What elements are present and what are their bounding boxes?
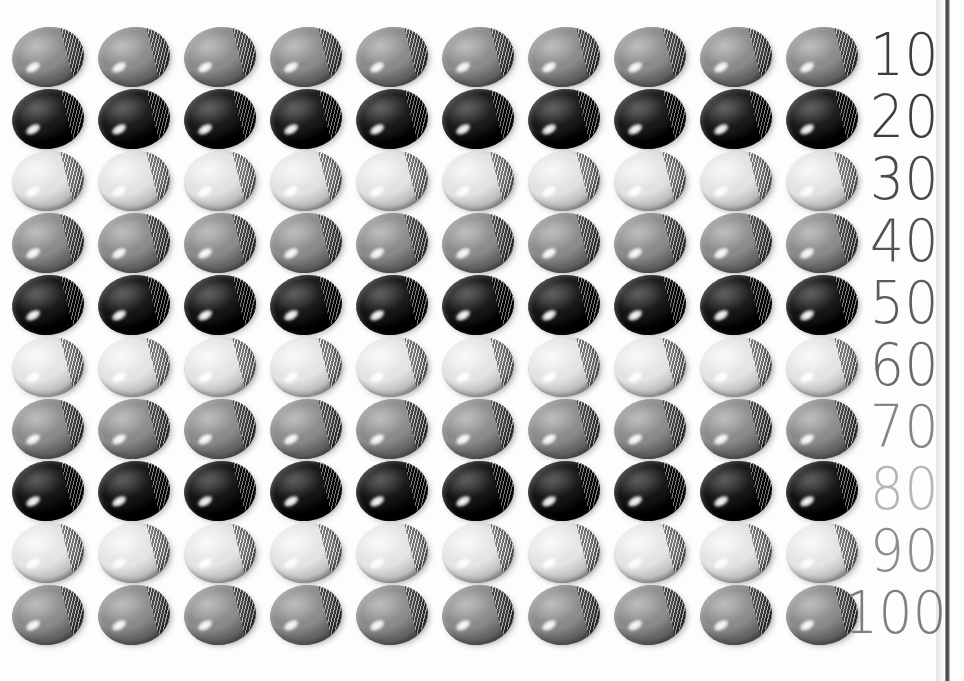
disc[interactable]	[700, 213, 772, 273]
disc[interactable]	[700, 399, 772, 459]
disc[interactable]	[12, 461, 84, 521]
disc[interactable]	[786, 523, 858, 583]
disc[interactable]	[356, 27, 428, 87]
disc[interactable]	[356, 585, 428, 645]
disc[interactable]	[786, 399, 858, 459]
disc[interactable]	[98, 275, 170, 335]
disc[interactable]	[700, 275, 772, 335]
disc[interactable]	[786, 89, 858, 149]
disc[interactable]	[12, 585, 84, 645]
disc[interactable]	[786, 27, 858, 87]
disc[interactable]	[442, 337, 514, 397]
disc[interactable]	[614, 213, 686, 273]
disc[interactable]	[700, 461, 772, 521]
disc[interactable]	[12, 27, 84, 87]
disc[interactable]	[356, 523, 428, 583]
disc[interactable]	[356, 151, 428, 211]
disc[interactable]	[442, 585, 514, 645]
disc[interactable]	[700, 89, 772, 149]
disc[interactable]	[356, 89, 428, 149]
disc[interactable]	[614, 523, 686, 583]
disc[interactable]	[528, 27, 600, 87]
disc[interactable]	[614, 585, 686, 645]
disc[interactable]	[442, 89, 514, 149]
disc[interactable]	[700, 585, 772, 645]
disc[interactable]	[442, 275, 514, 335]
disc[interactable]	[614, 89, 686, 149]
disc[interactable]	[184, 461, 256, 521]
disc[interactable]	[786, 151, 858, 211]
disc[interactable]	[98, 337, 170, 397]
disc[interactable]	[12, 151, 84, 211]
disc[interactable]	[786, 213, 858, 273]
disc[interactable]	[270, 213, 342, 273]
disc[interactable]	[528, 461, 600, 521]
disc[interactable]	[356, 337, 428, 397]
disc[interactable]	[614, 27, 686, 87]
disc[interactable]	[270, 151, 342, 211]
disc[interactable]	[12, 275, 84, 335]
disc[interactable]	[442, 151, 514, 211]
disc[interactable]	[614, 461, 686, 521]
disc[interactable]	[12, 523, 84, 583]
disc[interactable]	[700, 27, 772, 87]
disc[interactable]	[184, 399, 256, 459]
disc[interactable]	[700, 151, 772, 211]
disc[interactable]	[614, 337, 686, 397]
disc[interactable]	[786, 337, 858, 397]
disc[interactable]	[12, 337, 84, 397]
disc[interactable]	[98, 213, 170, 273]
disc[interactable]	[528, 585, 600, 645]
disc[interactable]	[528, 213, 600, 273]
disc[interactable]	[442, 523, 514, 583]
disc[interactable]	[442, 27, 514, 87]
disc[interactable]	[184, 151, 256, 211]
disc[interactable]	[98, 461, 170, 521]
disc[interactable]	[700, 337, 772, 397]
disc[interactable]	[12, 399, 84, 459]
disc[interactable]	[98, 151, 170, 211]
disc[interactable]	[614, 275, 686, 335]
disc[interactable]	[12, 89, 84, 149]
disc[interactable]	[98, 89, 170, 149]
disc[interactable]	[98, 585, 170, 645]
disc[interactable]	[356, 461, 428, 521]
disc[interactable]	[270, 337, 342, 397]
disc[interactable]	[270, 461, 342, 521]
disc[interactable]	[528, 89, 600, 149]
disc[interactable]	[98, 399, 170, 459]
disc[interactable]	[700, 523, 772, 583]
disc[interactable]	[442, 461, 514, 521]
disc[interactable]	[270, 27, 342, 87]
disc[interactable]	[442, 213, 514, 273]
disc[interactable]	[786, 275, 858, 335]
disc[interactable]	[356, 275, 428, 335]
disc[interactable]	[98, 27, 170, 87]
disc[interactable]	[528, 151, 600, 211]
disc[interactable]	[786, 461, 858, 521]
disc[interactable]	[356, 399, 428, 459]
disc[interactable]	[528, 275, 600, 335]
disc[interactable]	[184, 523, 256, 583]
disc[interactable]	[184, 89, 256, 149]
disc[interactable]	[270, 399, 342, 459]
disc[interactable]	[184, 213, 256, 273]
disc[interactable]	[270, 275, 342, 335]
disc[interactable]	[270, 523, 342, 583]
disc[interactable]	[12, 213, 84, 273]
disc[interactable]	[98, 523, 170, 583]
disc[interactable]	[184, 337, 256, 397]
disc[interactable]	[270, 585, 342, 645]
disc[interactable]	[270, 89, 342, 149]
disc[interactable]	[184, 585, 256, 645]
disc[interactable]	[528, 399, 600, 459]
disc[interactable]	[184, 275, 256, 335]
disc[interactable]	[614, 399, 686, 459]
disc[interactable]	[528, 337, 600, 397]
disc[interactable]	[442, 399, 514, 459]
disc[interactable]	[184, 27, 256, 87]
disc[interactable]	[356, 213, 428, 273]
disc[interactable]	[614, 151, 686, 211]
disc[interactable]	[528, 523, 600, 583]
disc-surface	[181, 147, 260, 215]
